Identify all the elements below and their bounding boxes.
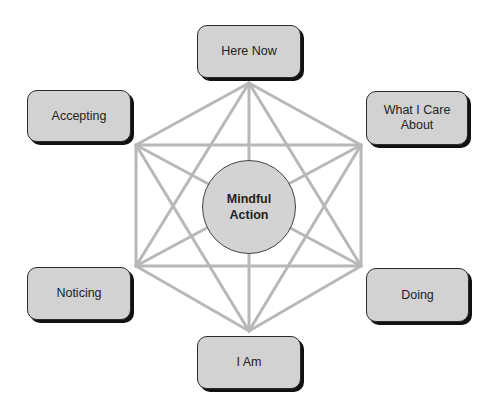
node-here-now: Here Now (197, 25, 301, 78)
node-label: What I Care About (373, 103, 461, 133)
node-i-am: I Am (197, 336, 301, 389)
center-node-mindful-action: Mindful Action (202, 160, 296, 254)
node-what-i-care-about: What I Care About (366, 91, 468, 145)
node-accepting: Accepting (27, 90, 131, 142)
node-label: I Am (236, 355, 261, 370)
node-label: Noticing (56, 286, 101, 301)
node-noticing: Noticing (27, 267, 131, 320)
node-label: Here Now (221, 44, 277, 59)
node-doing: Doing (366, 268, 469, 322)
node-label: Doing (401, 288, 434, 303)
node-label: Accepting (52, 109, 107, 124)
center-node-label: Mindful Action (213, 191, 285, 223)
